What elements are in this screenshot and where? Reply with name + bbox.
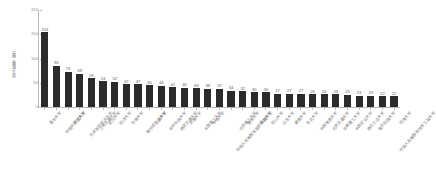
bar-value-label: 47	[136, 79, 141, 84]
bar-rect[interactable]	[193, 88, 200, 107]
x-axis-label: 清华大学	[48, 110, 62, 125]
bar-value-label: 38	[206, 83, 211, 88]
bar-rect[interactable]	[76, 74, 83, 107]
bar-item[interactable]: 52	[109, 10, 121, 107]
bar-rect[interactable]	[181, 88, 188, 107]
x-axis-label: 北京大学	[153, 110, 167, 125]
bar-rect[interactable]	[65, 72, 72, 107]
bar-rect[interactable]	[53, 66, 60, 107]
bar-item[interactable]: 39	[190, 10, 202, 107]
bar-item[interactable]: 26	[307, 10, 319, 107]
bar-item[interactable]: 22	[388, 10, 400, 107]
bar-item[interactable]: 27	[283, 10, 295, 107]
x-axis-label: 中南大学	[211, 110, 225, 125]
bar-value-label: 39	[194, 83, 199, 88]
bar-rect[interactable]	[41, 32, 48, 107]
bar-value-label: 44	[159, 80, 164, 85]
bar-rect[interactable]	[99, 81, 106, 107]
bar-value-label: 27	[275, 88, 280, 93]
bar-item[interactable]: 26	[318, 10, 330, 107]
bar-rect[interactable]	[379, 96, 386, 107]
bar-value-label: 23	[368, 90, 373, 95]
bar-item[interactable]: 23	[365, 10, 377, 107]
y-tick-label: 0	[22, 104, 38, 110]
bar-rect[interactable]	[297, 94, 304, 107]
y-tick-mark	[40, 107, 43, 108]
bar-item[interactable]: 26	[330, 10, 342, 107]
bar-value-label: 32	[240, 86, 245, 91]
bar-item[interactable]: 37	[214, 10, 226, 107]
bar-item[interactable]: 34	[225, 10, 237, 107]
bar-item[interactable]: 45	[144, 10, 156, 107]
bar-item[interactable]: 32	[237, 10, 249, 107]
bar-rect[interactable]	[309, 94, 316, 107]
bar-value-label: 30	[252, 87, 257, 92]
bar-item[interactable]: 22	[377, 10, 389, 107]
bar-rect[interactable]	[356, 96, 363, 107]
bar-rect[interactable]	[111, 82, 118, 107]
bar-value-label: 26	[310, 89, 315, 94]
bar-rect[interactable]	[134, 84, 141, 107]
bar-item[interactable]: 27	[272, 10, 284, 107]
bar-value-label: 47	[124, 79, 129, 84]
bar-value-label: 30	[264, 87, 269, 92]
bar-item[interactable]: 47	[120, 10, 132, 107]
bar-item[interactable]: 30	[249, 10, 261, 107]
bar-value-label: 37	[217, 83, 222, 88]
bar-item[interactable]: 47	[132, 10, 144, 107]
bar-rect[interactable]	[286, 94, 293, 107]
bar-item[interactable]: 73	[62, 10, 74, 107]
bar-value-label: 25	[345, 89, 350, 94]
bar-rect[interactable]	[146, 85, 153, 107]
bar-value-label: 41	[171, 82, 176, 87]
bar-value-label: 27	[299, 88, 304, 93]
bar-rect[interactable]	[88, 78, 95, 107]
bar-item[interactable]: 59	[86, 10, 98, 107]
bar-rect[interactable]	[123, 84, 130, 107]
bar-item[interactable]: 23	[353, 10, 365, 107]
bar-rect[interactable]	[227, 91, 234, 107]
bar-item[interactable]: 44	[155, 10, 167, 107]
x-axis-labels: 清华大学中国科学院大学浙江大学北京航空航天大学上海交通大学武汉大学同济大学东南大…	[39, 109, 400, 193]
bar-rect[interactable]	[344, 95, 351, 107]
bar-rect[interactable]	[332, 94, 339, 107]
bar-item[interactable]: 27	[295, 10, 307, 107]
bar-item[interactable]: 25	[342, 10, 354, 107]
bar-rect[interactable]	[367, 96, 374, 107]
bar-value-label: 53	[101, 76, 106, 81]
x-axis-label: 浙江大学	[72, 110, 86, 125]
bar-item[interactable]: 69	[74, 10, 86, 107]
bar-rect[interactable]	[239, 91, 246, 107]
bar-rect[interactable]	[274, 94, 281, 107]
bar-value-label: 27	[287, 88, 292, 93]
y-axis-title: 论文数量（篇）	[10, 28, 20, 98]
bar-value-label: 85	[54, 60, 59, 65]
x-axis-label: 河海大学	[398, 110, 412, 125]
bar-value-label: 22	[380, 91, 385, 96]
bar-rect[interactable]	[169, 87, 176, 107]
bar-value-label: 69	[77, 68, 82, 73]
bar-rect[interactable]	[158, 86, 165, 107]
y-tick-label: 200	[22, 7, 38, 13]
bar-item[interactable]: 41	[167, 10, 179, 107]
bar-value-label: 40	[182, 82, 187, 87]
bar-rect[interactable]	[321, 94, 328, 107]
bar-item[interactable]: 30	[260, 10, 272, 107]
bar-item[interactable]: 85	[51, 10, 63, 107]
bar-rect[interactable]	[262, 92, 269, 107]
bar-value-label: 23	[357, 90, 362, 95]
y-tick-label: 100	[22, 56, 38, 62]
bar-item[interactable]: 40	[179, 10, 191, 107]
bar-item[interactable]: 53	[97, 10, 109, 107]
bar-rect[interactable]	[390, 96, 397, 107]
bar-value-label: 22	[392, 91, 397, 96]
bar-item[interactable]: 154	[39, 10, 51, 107]
bar-value-label: 26	[322, 89, 327, 94]
bar-rect[interactable]	[204, 89, 211, 107]
bar-value-label: 26	[334, 89, 339, 94]
bar-rect[interactable]	[216, 89, 223, 107]
bar-rect[interactable]	[251, 92, 258, 107]
y-tick-label: 150	[22, 31, 38, 37]
bar-item[interactable]: 38	[202, 10, 214, 107]
